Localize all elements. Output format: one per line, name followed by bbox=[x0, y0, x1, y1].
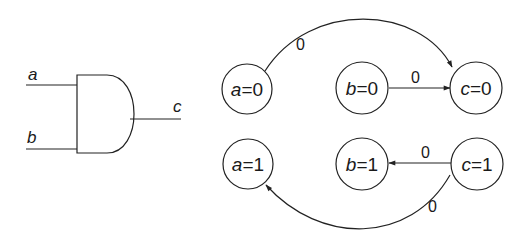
and-gate-body bbox=[77, 75, 134, 153]
and-gate bbox=[26, 75, 181, 153]
edge-label-b0-c0: 0 bbox=[411, 69, 420, 86]
edge-label-a0-c0: 0 bbox=[296, 36, 305, 53]
node-b1-label: b=1 bbox=[346, 154, 378, 175]
node-a1-label: a=1 bbox=[232, 154, 264, 175]
gate-input-b-label: b bbox=[27, 128, 36, 147]
edge-label-c1-b1: 0 bbox=[421, 144, 430, 161]
node-b0-label: b=0 bbox=[346, 78, 378, 99]
diagram-canvas: a b c 0 0 0 0 a=0 b=0 c=0 a=1 b=1 c=1 bbox=[0, 0, 530, 238]
node-c0-label: c=0 bbox=[460, 78, 491, 99]
node-c1-label: c=1 bbox=[461, 154, 492, 175]
gate-output-c-label: c bbox=[173, 97, 182, 116]
node-a0-label: a=0 bbox=[231, 79, 263, 100]
gate-input-a-label: a bbox=[28, 65, 37, 84]
edge-label-c1-a1: 0 bbox=[428, 198, 437, 215]
